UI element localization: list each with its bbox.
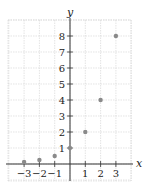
data-point [37,158,41,162]
y-tick-label: 5 [59,79,65,90]
y-tick-label: 3 [59,111,65,122]
x-axis-label: x [136,157,143,170]
x-tick-label: 2 [97,168,103,179]
y-tick-label: 4 [59,95,65,106]
x-tick-label: −3 [17,168,32,179]
axes [6,18,133,181]
data-point [53,154,57,158]
y-axis-label: y [66,6,74,19]
y-tick-label: 8 [59,31,65,42]
y-tick-label: 1 [59,143,65,154]
chart: −3−2−112312345678 x y [0,0,148,192]
x-tick-label: −2 [32,168,47,179]
y-tick-label: 7 [59,47,65,58]
x-tick-label: 3 [113,168,119,179]
data-point [22,160,26,164]
y-tick-label: 6 [59,63,65,74]
x-tick-label: 1 [82,168,88,179]
ticks: −3−2−112312345678 [17,31,119,180]
data-point [114,34,118,38]
data-point [98,98,102,102]
data-point [68,146,72,150]
x-tick-label: −1 [47,168,62,179]
data-point [83,130,87,134]
y-tick-label: 2 [59,127,65,138]
